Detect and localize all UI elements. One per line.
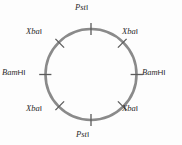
enzyme-numeral: I bbox=[136, 104, 138, 113]
enzyme-numeral: HI bbox=[18, 68, 26, 77]
enzyme-name: Xba bbox=[26, 26, 40, 36]
site-label-xba-bottom-left: XbaI bbox=[26, 104, 42, 113]
enzyme-numeral: HI bbox=[158, 68, 166, 77]
enzyme-numeral: I bbox=[136, 27, 138, 36]
enzyme-numeral: I bbox=[87, 130, 89, 139]
enzyme-name: Pst bbox=[76, 129, 87, 139]
enzyme-name: Xba bbox=[26, 103, 40, 113]
enzyme-numeral: I bbox=[40, 104, 42, 113]
enzyme-name: Bam bbox=[142, 67, 158, 77]
site-label-xba-bottom-right: XbaI bbox=[122, 104, 138, 113]
enzyme-numeral: I bbox=[40, 27, 42, 36]
enzyme-name: Xba bbox=[122, 103, 136, 113]
site-label-pst-bottom: PstI bbox=[76, 130, 89, 139]
site-label-xba-top-right: XbaI bbox=[122, 27, 138, 36]
enzyme-name: Pst bbox=[75, 2, 86, 12]
plasmid-restriction-map-figure: PstI XbaI BamHI XbaI PstI XbaI BamHI Xba… bbox=[0, 0, 182, 145]
site-label-pst-top: PstI bbox=[75, 3, 88, 12]
enzyme-numeral: I bbox=[86, 3, 88, 12]
enzyme-name: Bam bbox=[2, 67, 18, 77]
site-label-xba-top-left: XbaI bbox=[26, 27, 42, 36]
site-label-bam-left: BamHI bbox=[2, 68, 26, 77]
site-label-bam-right: BamHI bbox=[142, 68, 166, 77]
enzyme-name: Xba bbox=[122, 26, 136, 36]
